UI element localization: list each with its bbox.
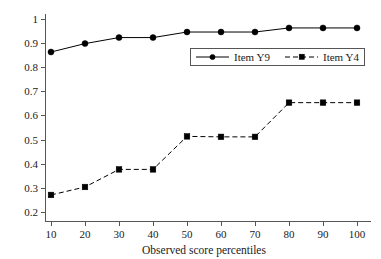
y-tick-label: 0.9 [24, 37, 38, 49]
x-tick-label: 30 [114, 228, 126, 240]
legend-marker-circle [210, 54, 215, 59]
y-tick-label: 0.4 [24, 158, 38, 170]
data-point-marker-circle [48, 49, 54, 55]
data-point-marker-square [252, 134, 258, 140]
x-tick-label: 60 [216, 228, 228, 240]
x-axis-title: Observed score percentiles [142, 244, 266, 257]
legend-marker-square [299, 54, 304, 59]
data-point-marker-square [150, 167, 156, 173]
line-chart: 1 0.9 0.8 0.7 0.6 0.5 0.4 0.3 0.2 10 20 [0, 0, 381, 259]
x-tick-label: 80 [284, 228, 296, 240]
data-point-marker-square [184, 134, 190, 140]
data-point-marker-square [320, 100, 326, 106]
legend-label-item-y4: Item Y4 [323, 51, 359, 63]
x-tick-label: 70 [250, 228, 262, 240]
data-point-marker-square [82, 184, 88, 190]
data-point-marker-circle [82, 41, 88, 47]
data-point-marker-circle [286, 25, 292, 31]
y-tick-label: 0.5 [24, 134, 38, 146]
x-tick-label: 10 [46, 228, 58, 240]
y-tick-label: 0.8 [24, 61, 38, 73]
data-point-marker-square [48, 192, 54, 198]
data-point-marker-square [286, 100, 292, 106]
x-tick-label: 50 [182, 228, 194, 240]
data-point-marker-square [116, 167, 122, 173]
y-tick-label: 0.7 [24, 85, 38, 97]
y-tick-label: 1 [33, 13, 39, 25]
data-point-marker-circle [252, 29, 258, 35]
data-point-marker-circle [320, 25, 326, 31]
chart-background [0, 0, 381, 259]
data-point-marker-circle [150, 35, 156, 41]
chart-legend[interactable]: Item Y9 Item Y4 [191, 49, 365, 66]
data-point-marker-circle [184, 29, 190, 35]
y-tick-label: 0.6 [24, 109, 38, 121]
legend-label-item-y9: Item Y9 [234, 51, 270, 63]
x-tick-label: 100 [349, 228, 366, 240]
data-point-marker-square [218, 134, 224, 140]
data-point-marker-square [354, 100, 360, 106]
chart-page: 1 0.9 0.8 0.7 0.6 0.5 0.4 0.3 0.2 10 20 [0, 0, 381, 259]
x-tick-label: 20 [80, 228, 92, 240]
data-point-marker-circle [354, 25, 360, 31]
x-tick-label: 40 [148, 228, 160, 240]
data-point-marker-circle [218, 29, 224, 35]
y-tick-label: 0.3 [24, 182, 38, 194]
y-tick-label: 0.2 [24, 206, 38, 218]
data-point-marker-circle [116, 35, 122, 41]
x-tick-label: 90 [318, 228, 330, 240]
